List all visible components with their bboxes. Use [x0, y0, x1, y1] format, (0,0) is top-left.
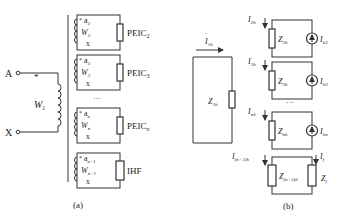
- svg-text:*: *: [79, 110, 82, 116]
- impedance-icon: [269, 121, 275, 140]
- terminal-a-icon: [16, 71, 20, 75]
- primary-winding-label: W1: [34, 99, 45, 111]
- harmonic-loop-n-plus-1: I(n+1)h Z(n+1)h If Zf: [231, 152, 327, 194]
- svg-text:x: x: [86, 177, 90, 186]
- secondary-winding-3: * a3 W3 x PEIC3: [75, 55, 150, 90]
- terminal-x-icon: [16, 130, 20, 134]
- svg-text:an+1: an+1: [84, 154, 96, 164]
- filter-resistor-icon: [116, 161, 124, 180]
- svg-text:a2: a2: [84, 16, 91, 26]
- panel-a-transformer: A * X W1 * a2 W2 x PEIC2 * a3: [5, 15, 150, 210]
- svg-text:x: x: [86, 132, 90, 141]
- load-resistor-icon: [117, 64, 123, 81]
- primary-loop: I1h · Z1h: [193, 31, 235, 143]
- svg-text:Inh: Inh: [247, 107, 256, 117]
- panel-b-equivalent-circuit: I1h · Z1h I2h Z2h Ih2 I3h Z3h: [193, 15, 328, 211]
- terminal-a-label: A: [5, 68, 13, 79]
- svg-text:W2: W2: [81, 28, 91, 38]
- svg-text:Z(n+1)h: Z(n+1)h: [279, 172, 298, 182]
- svg-text:Ih3: Ih3: [319, 77, 328, 87]
- svg-text:*: *: [79, 17, 82, 23]
- svg-text:If: If: [319, 152, 325, 162]
- harmonic-loop-n: Inh Znh Ihn: [247, 107, 328, 149]
- secondary-winding-2: * a2 W2 x PEIC2: [75, 15, 150, 50]
- impedance-icon: [269, 29, 275, 48]
- svg-text:x: x: [86, 39, 90, 48]
- load-label: PEIC2: [127, 28, 150, 39]
- svg-text:Ih2: Ih2: [319, 35, 328, 45]
- svg-text:Wn: Wn: [81, 121, 91, 131]
- svg-text:I1h: I1h: [204, 37, 213, 47]
- ellipsis: ···: [286, 98, 294, 107]
- caption-b: (b): [283, 201, 294, 211]
- svg-text:·: ·: [205, 31, 207, 37]
- circuit-diagram: A * X W1 * a2 W2 x PEIC2 * a3: [0, 0, 343, 218]
- load-label: PEICn: [127, 121, 150, 132]
- svg-text:I2h: I2h: [247, 15, 256, 25]
- svg-text:Wn+1: Wn+1: [81, 166, 96, 176]
- terminal-x-label: X: [5, 127, 13, 138]
- svg-text:Z1h: Z1h: [208, 97, 218, 107]
- secondary-winding-n: * an Wn x PEICn: [75, 108, 150, 143]
- load-resistor-icon: [117, 117, 123, 134]
- harmonic-loop-3: I3h Z3h Ih3: [247, 57, 328, 99]
- svg-text:I3h: I3h: [247, 57, 256, 67]
- svg-text:*: *: [79, 155, 82, 161]
- filter-impedance-icon: [308, 165, 316, 186]
- caption-a: (a): [73, 200, 83, 210]
- svg-text:x: x: [86, 79, 90, 88]
- secondary-winding-n-plus-1: * an+1 Wn+1 x IHF: [75, 153, 142, 188]
- primary-winding: A * X W1: [5, 68, 61, 138]
- svg-text:*: *: [79, 57, 82, 63]
- impedance-icon: [268, 165, 276, 186]
- svg-text:Z3h: Z3h: [278, 77, 288, 87]
- svg-text:Ihn: Ihn: [319, 127, 328, 137]
- primary-coil-icon: [58, 84, 61, 126]
- impedance-icon: [269, 71, 275, 90]
- svg-text:Znh: Znh: [278, 127, 288, 137]
- harmonic-loop-2: I2h Z2h Ih2: [247, 15, 328, 57]
- svg-text:W3: W3: [81, 68, 91, 78]
- load-resistor-icon: [117, 24, 123, 41]
- svg-text:Zf: Zf: [321, 174, 327, 184]
- load-label: PEIC3: [127, 68, 150, 79]
- load-label: IHF: [127, 166, 142, 176]
- svg-text:I(n+1)h: I(n+1)h: [231, 152, 249, 162]
- impedance-icon: [229, 91, 235, 108]
- svg-text:an: an: [84, 109, 91, 119]
- ellipsis: ···: [93, 94, 101, 103]
- svg-text:a3: a3: [84, 56, 91, 66]
- svg-text:Z2h: Z2h: [278, 35, 288, 45]
